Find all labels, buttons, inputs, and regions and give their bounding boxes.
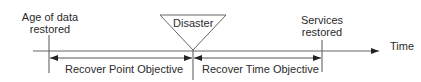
services-restored-label: Services restored [295,14,349,38]
services-restored-label-line2: restored [295,26,349,38]
age-of-data-label-line1: Age of data [20,11,80,23]
age-of-data-label: Age of data restored [20,11,80,35]
time-axis-label: Time [390,40,414,52]
services-restored-label-line1: Services [295,14,349,26]
rpo-label: Recover Point Objective [65,63,183,75]
rto-label: Recover Time Objective [202,63,319,75]
age-of-data-label-line2: restored [20,23,80,35]
disaster-label: Disaster [173,17,213,29]
